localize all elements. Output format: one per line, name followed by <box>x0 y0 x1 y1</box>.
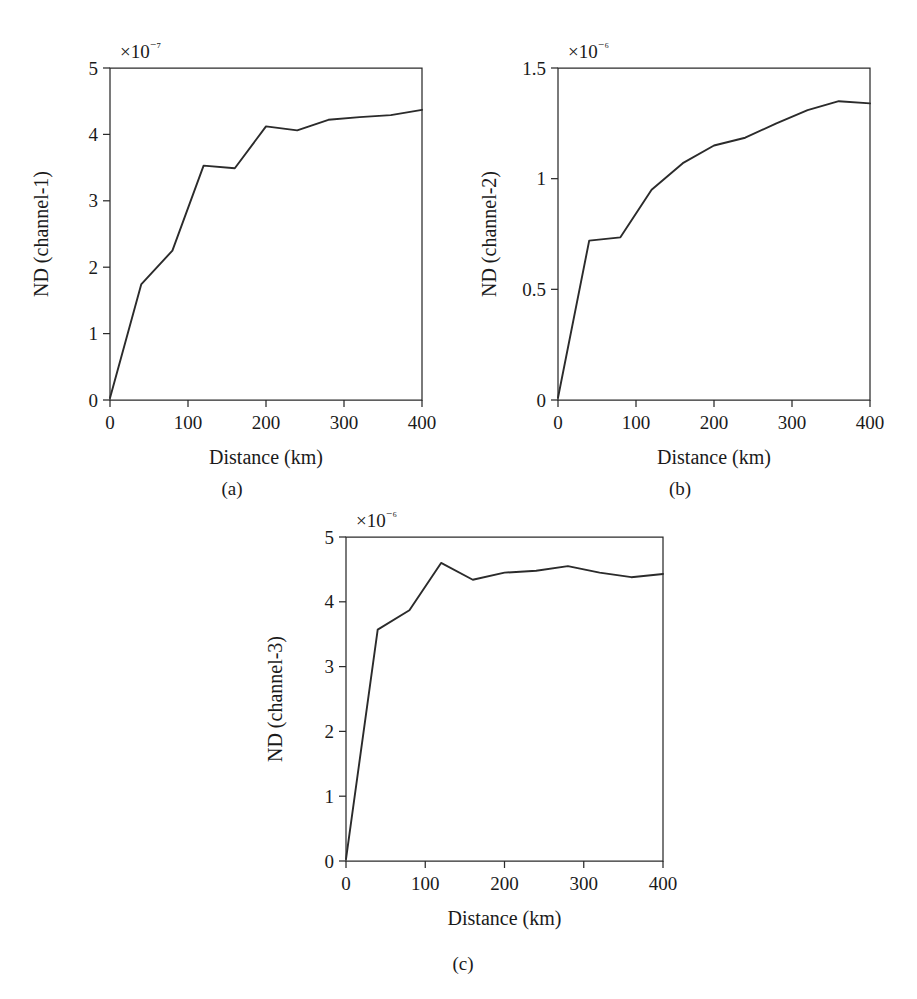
chart-panel-b: 00.511.50100200300400×10⁻⁶Distance (km)N… <box>470 38 890 508</box>
y-tick-label: 4 <box>89 124 99 145</box>
plot-area-c: 0123450100200300400×10⁻⁶Distance (km)ND … <box>248 505 678 950</box>
y-tick-label: 1 <box>537 168 547 189</box>
x-tick-label: 400 <box>649 873 678 894</box>
y-tick-label: 3 <box>325 656 335 677</box>
y-tick-label: 5 <box>325 527 335 548</box>
y-tick-label: 0 <box>537 390 547 411</box>
y-tick-label: 0.5 <box>522 279 546 300</box>
x-tick-label: 0 <box>553 412 563 433</box>
x-axis-title: Distance (km) <box>209 446 323 469</box>
panel-caption-a: (a) <box>22 478 442 500</box>
x-tick-label: 300 <box>570 873 599 894</box>
panel-caption-c: (c) <box>248 953 678 975</box>
y-axis-title: ND (channel-1) <box>30 171 53 297</box>
x-tick-label: 100 <box>174 412 203 433</box>
x-axis-title: Distance (km) <box>448 907 562 930</box>
plot-area-a: 0123450100200300400×10⁻⁷Distance (km)ND … <box>22 38 442 478</box>
plot-frame <box>346 537 663 861</box>
line-chart-c: 0123450100200300400×10⁻⁶Distance (km)ND … <box>248 505 678 950</box>
y-tick-label: 0 <box>89 390 99 411</box>
y-tick-label: 1 <box>325 786 335 807</box>
y-tick-label: 3 <box>89 190 99 211</box>
y-tick-label: 5 <box>89 58 99 79</box>
x-tick-label: 100 <box>411 873 440 894</box>
x-tick-label: 400 <box>856 412 885 433</box>
panel-caption-b: (b) <box>470 478 890 500</box>
y-axis-exponent-label: ×10⁻⁶ <box>568 39 609 63</box>
x-tick-label: 200 <box>490 873 519 894</box>
data-series-line <box>558 101 870 398</box>
chart-panel-a: 0123450100200300400×10⁻⁷Distance (km)ND … <box>22 38 442 508</box>
chart-panel-c: 0123450100200300400×10⁻⁶Distance (km)ND … <box>248 505 678 985</box>
x-tick-label: 400 <box>408 412 437 433</box>
y-axis-title: ND (channel-3) <box>264 636 287 762</box>
data-series-line <box>110 110 422 398</box>
plot-area-b: 00.511.50100200300400×10⁻⁶Distance (km)N… <box>470 38 890 478</box>
x-tick-label: 300 <box>330 412 359 433</box>
x-tick-label: 100 <box>622 412 651 433</box>
y-axis-title: ND (channel-2) <box>478 171 501 297</box>
figure-three-panel-nd-vs-distance: 0123450100200300400×10⁻⁷Distance (km)ND … <box>0 0 917 999</box>
plot-frame <box>110 68 422 400</box>
x-tick-label: 200 <box>700 412 729 433</box>
y-tick-label: 1.5 <box>522 58 546 79</box>
y-tick-label: 2 <box>325 721 335 742</box>
data-series-line <box>346 563 663 859</box>
line-chart-a: 0123450100200300400×10⁻⁷Distance (km)ND … <box>22 38 442 478</box>
y-axis-exponent-label: ×10⁻⁷ <box>120 39 161 63</box>
x-tick-label: 0 <box>105 412 115 433</box>
y-tick-label: 0 <box>325 851 335 872</box>
x-tick-label: 300 <box>778 412 807 433</box>
y-tick-label: 4 <box>325 591 335 612</box>
x-tick-label: 200 <box>252 412 281 433</box>
plot-frame <box>558 68 870 400</box>
x-axis-title: Distance (km) <box>657 446 771 469</box>
line-chart-b: 00.511.50100200300400×10⁻⁶Distance (km)N… <box>470 38 890 478</box>
x-tick-label: 0 <box>341 873 351 894</box>
y-axis-exponent-label: ×10⁻⁶ <box>356 508 397 532</box>
y-tick-label: 1 <box>89 323 99 344</box>
y-tick-label: 2 <box>89 257 99 278</box>
